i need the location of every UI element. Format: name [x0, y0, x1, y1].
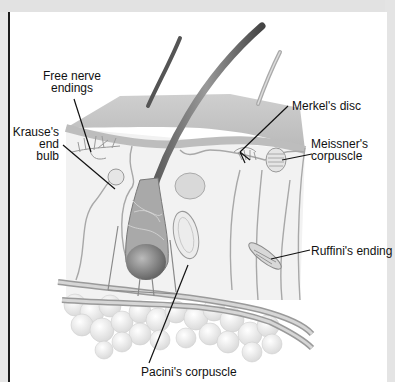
label-line: Pacini's corpuscle — [141, 366, 237, 378]
label-pacini-corpuscle: Pacini's corpuscle — [141, 366, 237, 378]
label-line: corpuscle — [311, 150, 368, 162]
label-merkel-disc: Merkel's disc — [292, 100, 361, 112]
label-krause-end-bulb: Krause's end bulb — [12, 126, 59, 162]
label-meissner-corpuscle: Meissner's corpuscle — [311, 138, 368, 162]
label-line: bulb — [12, 150, 59, 162]
label-line: Merkel's disc — [292, 100, 361, 112]
krause-end-bulb — [108, 169, 124, 185]
skin-illustration — [0, 0, 395, 382]
label-free-nerve-endings: Free nerve endings — [42, 70, 102, 94]
label-line: Ruffini's ending — [311, 245, 392, 257]
label-ruffini-ending: Ruffini's ending — [311, 245, 392, 257]
sebaceous-gland — [175, 173, 205, 199]
diagram-frame: Free nerve endings Krause's end bulb Mer… — [0, 0, 395, 382]
label-line: endings — [42, 82, 102, 94]
